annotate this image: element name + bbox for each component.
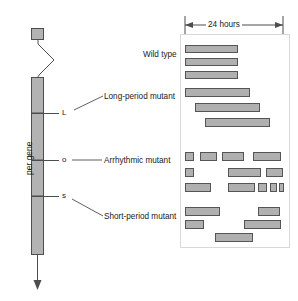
activity-bar [185,183,211,192]
activity-bar [185,207,220,216]
callout-long-period: Long-period mutant [104,92,175,101]
activity-bar [185,168,194,177]
activity-bar [266,168,283,177]
callout-arrhythmic: Arrhythmic mutant [104,156,170,165]
activity-bar [222,152,244,161]
activity-bar [205,118,270,127]
callout-short-period: Short-period mutant [104,212,176,221]
activity-bar [253,152,281,161]
activity-bar [185,58,238,66]
activity-bar [228,183,255,192]
activity-bar [228,168,261,177]
activity-bar [244,220,281,229]
activity-bar [185,45,238,53]
activity-bar [258,183,267,192]
activity-bar [279,183,284,192]
activity-bar [185,152,194,161]
activity-bar [185,88,250,97]
activity-bar [195,103,260,112]
activity-bar [200,152,217,161]
activity-bar [270,183,277,192]
activity-bar [185,220,204,229]
callout-wild-type: Wild type [143,50,177,59]
figure-root: L o s per gene Wild type Long-period mut… [0,0,298,301]
activity-bar [258,207,280,216]
activity-bar [215,233,253,242]
scale-bar-label: 24 hours [206,20,242,29]
activity-bar [185,71,238,79]
